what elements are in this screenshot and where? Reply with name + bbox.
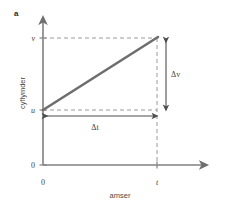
y-tick-label-zero: 0 (31, 161, 35, 170)
tick-marks (40, 38, 158, 169)
velocity-time-chart: Δv Δt v u 0 0 t amser cyflymder (0, 0, 233, 203)
x-tick-label-zero: 0 (41, 178, 45, 187)
figure-container: a (0, 0, 233, 203)
axis-titles: amser cyflymder (18, 76, 131, 200)
velocity-line (43, 37, 158, 110)
data-series-velocity (43, 37, 158, 110)
y-tick-label-u: u (31, 106, 35, 115)
y-tick-label-v: v (31, 34, 35, 43)
axis-group (43, 20, 204, 165)
x-tick-label-t: t (156, 178, 159, 187)
guide-lines (43, 38, 157, 165)
y-axis-title: cyflymder (18, 76, 27, 109)
delta-t-label: Δt (91, 123, 99, 132)
delta-v-annotation: Δv (166, 40, 180, 108)
delta-t-annotation: Δt (45, 116, 155, 132)
x-axis-title: amser (110, 191, 131, 200)
delta-v-label: Δv (171, 70, 180, 79)
